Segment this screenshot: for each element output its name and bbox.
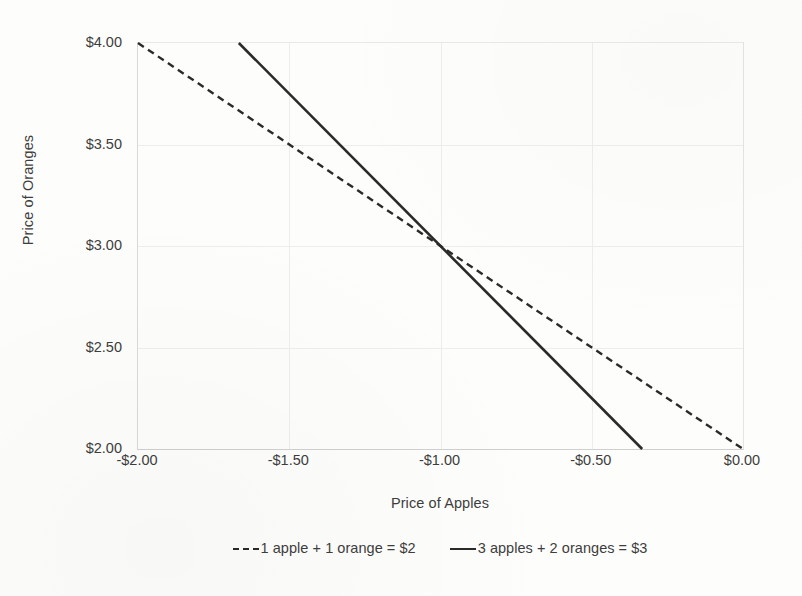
series-layer — [138, 43, 743, 449]
plot-inner — [138, 43, 743, 449]
y-axis-tick-label: $3.50 — [86, 136, 122, 152]
y-axis-tick-label: $3.00 — [86, 237, 122, 253]
chart-legend: 1 apple + 1 orange = $23 apples + 2 oran… — [137, 540, 743, 556]
x-axis-tick-label: -$2.00 — [116, 452, 157, 468]
y-axis-title: Price of Oranges — [20, 100, 36, 280]
y-axis-tick-labels: $4.00$3.50$3.00$2.50$2.00 — [44, 42, 130, 448]
x-axis-tick-label: $0.00 — [724, 452, 760, 468]
x-axis-tick-label: -$0.50 — [570, 452, 611, 468]
series-line-2 — [239, 43, 642, 449]
x-axis-tick-label: -$1.00 — [419, 452, 460, 468]
legend-item-label: 1 apple + 1 orange = $2 — [261, 540, 416, 556]
x-axis-tick-labels: -$2.00-$1.50-$1.00-$0.50$0.00 — [137, 452, 743, 478]
legend-dashed-line-icon — [233, 542, 259, 554]
chart-figure: Price of Oranges $4.00$3.50$3.00$2.50$2.… — [0, 0, 802, 596]
x-axis-title: Price of Apples — [137, 495, 743, 511]
y-axis-tick-label: $4.00 — [86, 34, 122, 50]
y-axis-tick-label: $2.50 — [86, 339, 122, 355]
plot-area — [137, 42, 744, 450]
legend-item-label: 3 apples + 2 oranges = $3 — [478, 540, 648, 556]
legend-item-2[interactable]: 3 apples + 2 oranges = $3 — [450, 540, 648, 556]
legend-item-1[interactable]: 1 apple + 1 orange = $2 — [233, 540, 416, 556]
legend-solid-line-icon — [450, 542, 476, 554]
x-axis-tick-label: -$1.50 — [268, 452, 309, 468]
